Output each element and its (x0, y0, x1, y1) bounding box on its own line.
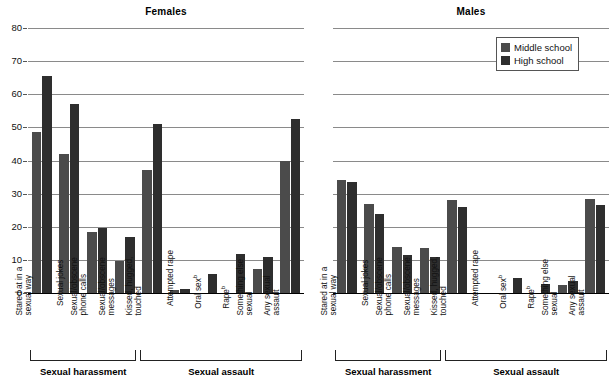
gridline (28, 28, 304, 29)
x-axis-label: Rapeb (524, 286, 536, 309)
x-axis-label: Sexual/obscenemessages (402, 257, 420, 315)
bar-middle-school (115, 261, 125, 293)
y-axis-tick-label: 80 (2, 22, 22, 33)
x-axis-label: Kissed, hugged,touched (125, 257, 143, 316)
x-axis-label: Something elsesexual (540, 259, 558, 315)
y-axis-tick-mark (23, 260, 27, 261)
gridline (333, 28, 609, 29)
legend-swatch-icon (501, 56, 510, 65)
x-axis-label: Attempted rape (471, 250, 480, 306)
bar-high-school (180, 289, 190, 293)
panel-title-females: Females (28, 6, 304, 17)
x-axis-label: Any sexualassault (263, 275, 281, 315)
legend-item-high-school: High school (501, 54, 572, 67)
gridline (333, 161, 609, 162)
y-axis-tick-mark (23, 61, 27, 62)
gridline (333, 194, 609, 195)
x-axis-label: Any sexualassault (568, 275, 586, 315)
bar-high-school (596, 205, 606, 293)
group-bracket (445, 350, 607, 361)
group-bracket (30, 350, 136, 361)
group-label: Sexual harassment (335, 366, 441, 377)
bar-high-school (513, 278, 523, 293)
y-axis-tick-mark (23, 94, 27, 95)
chart-legend: Middle schoolHigh school (496, 37, 579, 71)
gridline (333, 127, 609, 128)
y-axis-tick-label: 50 (2, 121, 22, 132)
y-axis-tick-mark (23, 227, 27, 228)
group-bracket (140, 350, 302, 361)
bar-middle-school (558, 285, 568, 293)
y-axis-tick-label: 70 (2, 55, 22, 66)
bar-middle-school (585, 199, 595, 293)
x-axis-label: Sexual/obscenephone calls (70, 257, 88, 315)
group-bracket (335, 350, 441, 361)
group-label: Sexual harassment (30, 366, 136, 377)
bar-high-school (153, 124, 163, 293)
bar-middle-school (142, 170, 152, 293)
x-axis-label: Sexual jokes (56, 260, 65, 306)
x-axis-label: Rapeb (219, 286, 231, 309)
y-axis-tick-label: 20 (2, 221, 22, 232)
panel-title-males: Males (333, 6, 609, 17)
bar-high-school (208, 274, 218, 293)
x-axis-label: Sexual/obscenemessages (97, 257, 115, 315)
bar-middle-school (253, 269, 263, 293)
x-axis-label: Stared at in asexual way (319, 267, 337, 316)
x-axis-label: Stared at in asexual way (14, 267, 32, 316)
x-axis-label: Kissed, hugged,touched (430, 257, 448, 316)
gridline (28, 94, 304, 95)
y-axis-tick-mark (23, 28, 27, 29)
bar-middle-school (32, 132, 42, 293)
x-axis-label: Oral sexb (496, 275, 508, 309)
y-axis-tick-mark (23, 194, 27, 195)
legend-label: Middle school (514, 42, 572, 53)
bar-middle-school (337, 180, 347, 293)
bar-high-school (347, 182, 357, 293)
legend-swatch-icon (501, 43, 510, 52)
x-axis-label: Something elsesexual (235, 259, 253, 315)
bar-high-school (458, 207, 468, 293)
legend-label: High school (514, 55, 564, 66)
y-axis-tick-label: 10 (2, 254, 22, 265)
bar-middle-school (392, 247, 402, 293)
y-axis-tick-mark (23, 127, 27, 128)
bar-middle-school (420, 248, 430, 293)
bar-middle-school (87, 232, 97, 293)
legend-item-middle-school: Middle school (501, 41, 572, 54)
bar-high-school (42, 76, 52, 293)
gridline (333, 94, 609, 95)
x-axis-label: Oral sexb (191, 275, 203, 309)
x-axis-label: Attempted rape (166, 250, 175, 306)
bar-middle-school (280, 161, 290, 294)
x-axis-label: Sexual jokes (361, 260, 370, 306)
y-axis-tick-label: 30 (2, 188, 22, 199)
y-axis-tick-label: 60 (2, 88, 22, 99)
group-label: Sexual assault (445, 366, 607, 377)
y-axis-tick-mark (23, 161, 27, 162)
group-label: Sexual assault (140, 366, 302, 377)
x-axis-label: Sexual/obscenephone calls (375, 257, 393, 315)
gridline (28, 61, 304, 62)
y-axis-tick-label: 40 (2, 155, 22, 166)
bar-high-school (291, 119, 301, 293)
bar-middle-school (447, 200, 457, 293)
chart-root: Females01020304050607080Stared at in ase… (0, 0, 615, 387)
